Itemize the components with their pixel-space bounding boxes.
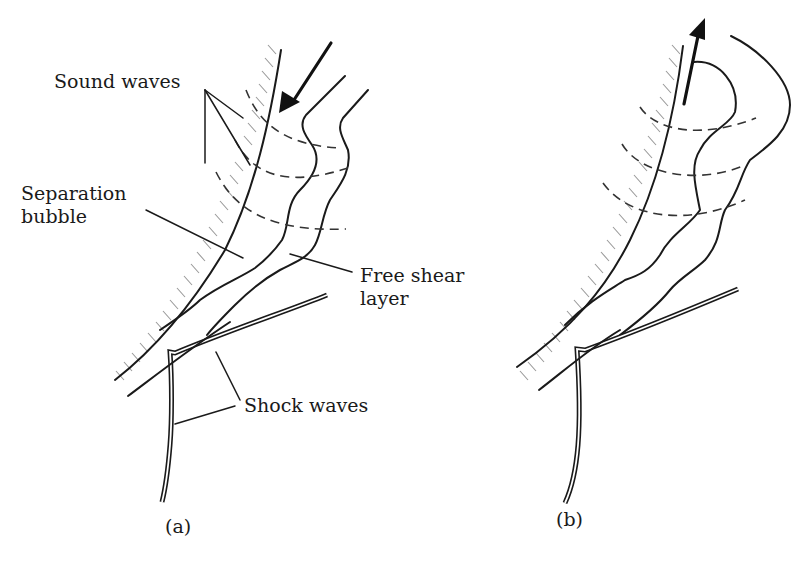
label-separation-line2: bubble	[21, 205, 87, 227]
sound-wave-arc-2-b	[622, 144, 745, 175]
label-sound-waves: Sound waves	[54, 70, 180, 92]
shock-waves-b	[565, 289, 738, 503]
free-shear-layer-outer-a	[207, 90, 368, 335]
sound-wave-arc-2-a	[235, 140, 348, 177]
inflow-arrow-icon	[279, 43, 331, 113]
shock-waves-leaders	[175, 352, 240, 424]
label-shock-waves: Shock waves	[244, 394, 368, 416]
wall-hatching-b	[520, 45, 680, 380]
figure-canvas: Sound waves Separation bubble Free shear…	[0, 0, 809, 566]
sound-waves-leaders	[205, 90, 250, 165]
wall-surface-a	[115, 50, 281, 380]
panel-b: (b)	[517, 18, 790, 530]
panel-a: Sound waves Separation bubble Free shear…	[21, 43, 465, 537]
sound-wave-arc-1-b	[640, 107, 756, 130]
separation-bubble-leader	[146, 210, 243, 258]
incident-wave-a	[128, 322, 230, 396]
free-shear-leader	[290, 254, 352, 272]
caption-b: (b)	[556, 508, 583, 530]
free-shear-layer-inner-a	[160, 76, 345, 330]
free-shear-layer-outer-b	[620, 36, 790, 335]
caption-a: (a)	[165, 515, 191, 537]
wall-hatching-a	[116, 45, 276, 380]
label-separation-line1: Separation	[21, 182, 127, 204]
label-free-shear-line1: Free shear	[360, 264, 465, 286]
label-free-shear-line2: layer	[360, 287, 409, 309]
wall-surface-b	[517, 46, 683, 367]
